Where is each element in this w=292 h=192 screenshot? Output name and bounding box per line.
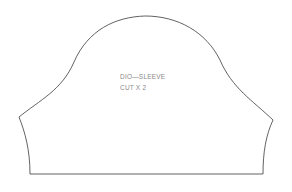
- pattern-piece-name: DIO—SLEEVE: [120, 73, 165, 80]
- cut-instruction: CUT X 2: [120, 84, 146, 91]
- sleeve-cap-curve: [19, 16, 273, 174]
- sleeve-pattern-outline: [0, 0, 292, 192]
